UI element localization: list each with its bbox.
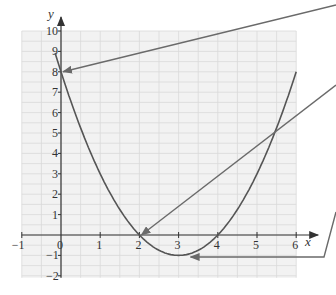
svg-text:1: 1 xyxy=(96,238,102,252)
svg-text:7: 7 xyxy=(52,85,58,99)
svg-text:−1: −1 xyxy=(12,238,25,252)
svg-text:3: 3 xyxy=(52,167,58,181)
x-axis-label: x xyxy=(304,234,311,249)
svg-text:6: 6 xyxy=(292,238,298,252)
svg-text:6: 6 xyxy=(52,106,58,120)
svg-text:2: 2 xyxy=(135,238,141,252)
svg-text:4: 4 xyxy=(52,146,58,160)
svg-text:4: 4 xyxy=(214,238,220,252)
parabola-chart: −10123456−2−112345678910 x y xyxy=(0,0,336,295)
svg-text:−1: −1 xyxy=(46,248,59,262)
svg-text:5: 5 xyxy=(52,126,58,140)
svg-text:1: 1 xyxy=(52,208,58,222)
svg-text:5: 5 xyxy=(253,238,259,252)
svg-text:2: 2 xyxy=(52,187,58,201)
svg-text:10: 10 xyxy=(46,24,58,38)
svg-text:3: 3 xyxy=(175,238,181,252)
svg-text:9: 9 xyxy=(52,44,58,58)
svg-text:8: 8 xyxy=(52,65,58,79)
y-axis-label: y xyxy=(46,6,54,21)
svg-text:−2: −2 xyxy=(46,269,59,283)
